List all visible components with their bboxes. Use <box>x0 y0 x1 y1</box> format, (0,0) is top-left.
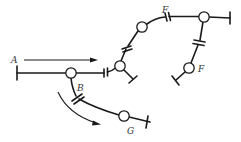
label-f-top: F <box>161 5 169 15</box>
arrow-a <box>24 58 98 63</box>
label-f-right: F <box>197 64 205 74</box>
node-f-top <box>137 22 147 32</box>
node-junction-upper <box>115 61 125 71</box>
node-junction-top-right <box>199 12 209 22</box>
upper-branch <box>121 12 230 85</box>
node-g <box>119 111 129 121</box>
node-f-right <box>184 63 194 73</box>
label-g: G <box>127 126 134 136</box>
node-junction-main <box>66 68 76 78</box>
reaction-diagram: A <box>0 0 241 142</box>
label-a: A <box>10 55 18 65</box>
label-b: B <box>76 83 84 93</box>
arrow-curved <box>58 92 101 126</box>
